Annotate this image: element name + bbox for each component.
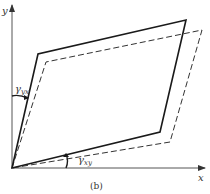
gamma-yx-label: γyx <box>15 83 29 96</box>
dashed-parallelogram <box>12 30 202 168</box>
x-axis-label: x <box>198 172 204 183</box>
shear-strain-diagram: y x γyx γxy (b) <box>0 0 210 194</box>
solid-parallelogram <box>12 20 186 168</box>
y-axis-label: y <box>1 5 8 16</box>
figure-caption: (b) <box>90 181 103 191</box>
